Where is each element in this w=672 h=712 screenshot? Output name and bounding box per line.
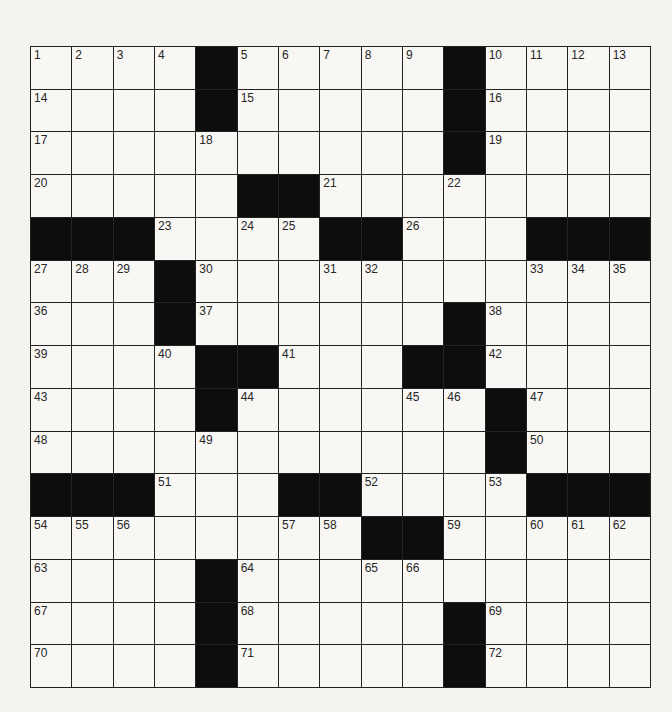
crossword-cell[interactable]	[403, 303, 443, 345]
crossword-cell[interactable]	[114, 645, 154, 687]
crossword-cell[interactable]: 5	[238, 47, 278, 89]
crossword-cell[interactable]	[72, 389, 112, 431]
crossword-cell[interactable]	[527, 346, 567, 388]
crossword-cell[interactable]	[114, 303, 154, 345]
crossword-cell[interactable]: 54	[31, 517, 71, 559]
crossword-cell[interactable]	[320, 432, 360, 474]
crossword-cell[interactable]	[568, 132, 608, 174]
crossword-cell[interactable]: 63	[31, 560, 71, 602]
crossword-cell[interactable]	[320, 389, 360, 431]
crossword-cell[interactable]	[320, 346, 360, 388]
crossword-cell[interactable]: 42	[486, 346, 526, 388]
crossword-cell[interactable]	[362, 346, 402, 388]
crossword-cell[interactable]	[444, 560, 484, 602]
crossword-cell[interactable]	[486, 218, 526, 260]
crossword-cell[interactable]	[444, 261, 484, 303]
crossword-cell[interactable]	[114, 346, 154, 388]
crossword-cell[interactable]	[444, 218, 484, 260]
crossword-cell[interactable]: 9	[403, 47, 443, 89]
crossword-cell[interactable]: 20	[31, 175, 71, 217]
crossword-cell[interactable]	[610, 90, 650, 132]
crossword-cell[interactable]	[238, 474, 278, 516]
crossword-cell[interactable]	[527, 303, 567, 345]
crossword-cell[interactable]	[155, 645, 195, 687]
crossword-cell[interactable]: 43	[31, 389, 71, 431]
crossword-cell[interactable]: 16	[486, 90, 526, 132]
crossword-cell[interactable]: 27	[31, 261, 71, 303]
crossword-cell[interactable]	[114, 603, 154, 645]
crossword-cell[interactable]	[403, 90, 443, 132]
crossword-cell[interactable]	[568, 175, 608, 217]
crossword-cell[interactable]	[568, 303, 608, 345]
crossword-cell[interactable]: 24	[238, 218, 278, 260]
crossword-cell[interactable]	[155, 432, 195, 474]
crossword-cell[interactable]	[403, 432, 443, 474]
crossword-cell[interactable]	[610, 645, 650, 687]
crossword-cell[interactable]: 19	[486, 132, 526, 174]
crossword-cell[interactable]: 21	[320, 175, 360, 217]
crossword-cell[interactable]: 6	[279, 47, 319, 89]
crossword-cell[interactable]: 53	[486, 474, 526, 516]
crossword-cell[interactable]: 28	[72, 261, 112, 303]
crossword-cell[interactable]	[155, 517, 195, 559]
crossword-cell[interactable]: 17	[31, 132, 71, 174]
crossword-cell[interactable]	[238, 303, 278, 345]
crossword-cell[interactable]	[486, 560, 526, 602]
crossword-cell[interactable]	[486, 175, 526, 217]
crossword-cell[interactable]	[362, 90, 402, 132]
crossword-cell[interactable]	[527, 645, 567, 687]
crossword-cell[interactable]: 1	[31, 47, 71, 89]
crossword-cell[interactable]	[610, 560, 650, 602]
crossword-cell[interactable]: 33	[527, 261, 567, 303]
crossword-cell[interactable]	[72, 603, 112, 645]
crossword-cell[interactable]	[568, 389, 608, 431]
crossword-cell[interactable]	[114, 389, 154, 431]
crossword-cell[interactable]	[196, 218, 236, 260]
crossword-cell[interactable]	[72, 175, 112, 217]
crossword-cell[interactable]: 34	[568, 261, 608, 303]
crossword-cell[interactable]: 47	[527, 389, 567, 431]
crossword-cell[interactable]	[155, 560, 195, 602]
crossword-cell[interactable]	[196, 175, 236, 217]
crossword-cell[interactable]	[362, 132, 402, 174]
crossword-cell[interactable]	[72, 90, 112, 132]
crossword-cell[interactable]: 57	[279, 517, 319, 559]
crossword-cell[interactable]: 48	[31, 432, 71, 474]
crossword-cell[interactable]: 32	[362, 261, 402, 303]
crossword-cell[interactable]	[610, 303, 650, 345]
crossword-cell[interactable]: 61	[568, 517, 608, 559]
crossword-cell[interactable]	[610, 389, 650, 431]
crossword-cell[interactable]	[155, 175, 195, 217]
crossword-cell[interactable]: 68	[238, 603, 278, 645]
crossword-cell[interactable]	[155, 603, 195, 645]
crossword-cell[interactable]	[527, 560, 567, 602]
crossword-cell[interactable]: 58	[320, 517, 360, 559]
crossword-cell[interactable]	[196, 517, 236, 559]
crossword-cell[interactable]	[279, 389, 319, 431]
crossword-cell[interactable]	[362, 175, 402, 217]
crossword-cell[interactable]: 23	[155, 218, 195, 260]
crossword-cell[interactable]: 69	[486, 603, 526, 645]
crossword-cell[interactable]	[279, 90, 319, 132]
crossword-cell[interactable]	[527, 90, 567, 132]
crossword-cell[interactable]: 50	[527, 432, 567, 474]
crossword-cell[interactable]	[568, 346, 608, 388]
crossword-cell[interactable]	[72, 346, 112, 388]
crossword-cell[interactable]: 11	[527, 47, 567, 89]
crossword-cell[interactable]	[362, 389, 402, 431]
crossword-cell[interactable]: 72	[486, 645, 526, 687]
crossword-cell[interactable]	[320, 90, 360, 132]
crossword-cell[interactable]	[444, 432, 484, 474]
crossword-cell[interactable]	[610, 175, 650, 217]
crossword-cell[interactable]: 62	[610, 517, 650, 559]
crossword-cell[interactable]: 66	[403, 560, 443, 602]
crossword-cell[interactable]	[610, 432, 650, 474]
crossword-cell[interactable]: 55	[72, 517, 112, 559]
crossword-cell[interactable]	[114, 90, 154, 132]
crossword-cell[interactable]	[114, 432, 154, 474]
crossword-cell[interactable]: 12	[568, 47, 608, 89]
crossword-cell[interactable]: 38	[486, 303, 526, 345]
crossword-cell[interactable]: 64	[238, 560, 278, 602]
crossword-cell[interactable]	[279, 132, 319, 174]
crossword-cell[interactable]: 15	[238, 90, 278, 132]
